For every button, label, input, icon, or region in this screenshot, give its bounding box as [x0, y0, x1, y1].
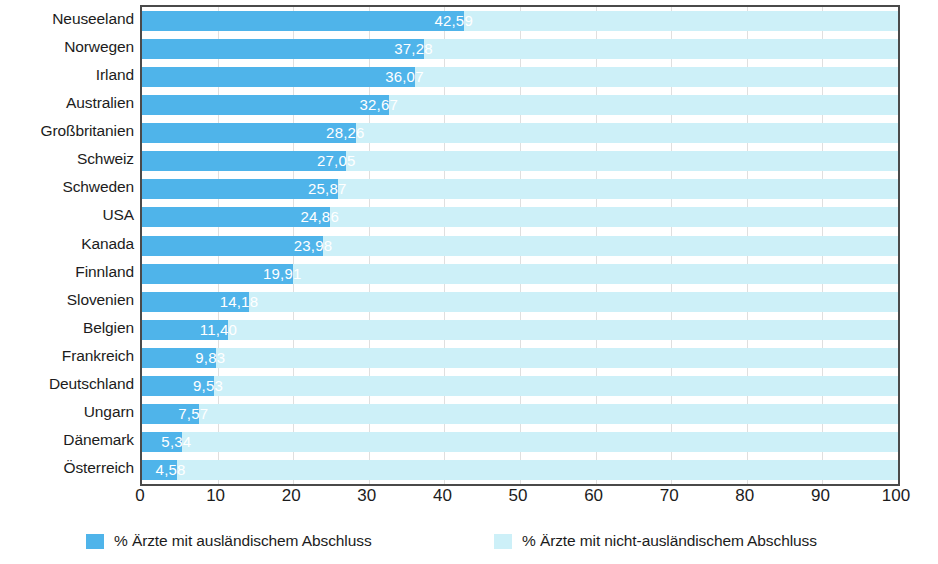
bar-value-label: 36,07: [142, 67, 424, 87]
bar-row: 28,26: [142, 123, 898, 143]
bar-row: 19,91: [142, 264, 898, 284]
bar-value-label: 7,57: [142, 404, 208, 424]
bar-value-label: 27,05: [142, 151, 355, 171]
y-axis-label-d-nemark: Dänemark: [2, 430, 134, 450]
y-axis-label-deutschland: Deutschland: [2, 374, 134, 394]
bar-row: 36,07: [142, 67, 898, 87]
x-axis-tick-50: 50: [488, 486, 548, 506]
bar-row: 9,53: [142, 376, 898, 396]
x-axis-tick-80: 80: [715, 486, 775, 506]
legend-item-domestic: % Ärzte mit nicht-ausländischem Abschlus…: [494, 528, 817, 554]
bar-row: 24,86: [142, 207, 898, 227]
y-axis-label--sterreich: Österreich: [2, 458, 134, 478]
y-axis-label-usa: USA: [2, 205, 134, 225]
x-axis-tick-20: 20: [261, 486, 321, 506]
bar-row: 9,83: [142, 348, 898, 368]
x-axis-tick-90: 90: [790, 486, 850, 506]
bar-value-label: 37,28: [142, 39, 433, 59]
bar-row: 7,57: [142, 404, 898, 424]
y-axis-label-ungarn: Ungarn: [2, 402, 134, 422]
bar-row: 32,67: [142, 95, 898, 115]
bar-value-label: 4,58: [142, 460, 186, 480]
y-axis-label-australien: Australien: [2, 93, 134, 113]
x-axis-tick-0: 0: [110, 486, 170, 506]
bar-row: 5,34: [142, 432, 898, 452]
x-axis-tick-40: 40: [412, 486, 472, 506]
bar-segment-domestic: [142, 320, 898, 340]
x-axis-tick-labels: 0102030405060708090100: [140, 486, 900, 514]
bar-row: 14,18: [142, 292, 898, 312]
y-axis-label-neuseeland: Neuseeland: [2, 9, 134, 29]
bar-value-label: 9,83: [142, 348, 225, 368]
x-axis-tick-100: 100: [866, 486, 926, 506]
y-axis-label-frankreich: Frankreich: [2, 346, 134, 366]
bar-value-label: 42,59: [142, 11, 473, 31]
bar-row: 37,28: [142, 39, 898, 59]
chart-legend: % Ärzte mit ausländischem Abschluss % Är…: [0, 528, 938, 558]
bar-row: 11,40: [142, 320, 898, 340]
bar-value-label: 11,40: [142, 320, 237, 340]
y-axis-label-finnland: Finnland: [2, 262, 134, 282]
bar-value-label: 14,18: [142, 292, 258, 312]
y-axis-label-slovenien: Slovenien: [2, 290, 134, 310]
x-axis-tick-30: 30: [337, 486, 397, 506]
y-axis-label-schweden: Schweden: [2, 177, 134, 197]
y-axis-label-norwegen: Norwegen: [2, 37, 134, 57]
y-axis-label-belgien: Belgien: [2, 318, 134, 338]
bar-value-label: 9,53: [142, 376, 223, 396]
legend-label-domestic: % Ärzte mit nicht-ausländischem Abschlus…: [522, 532, 817, 550]
y-axis-label-kanada: Kanada: [2, 234, 134, 254]
bar-row: 25,87: [142, 179, 898, 199]
legend-item-foreign: % Ärzte mit ausländischem Abschluss: [86, 528, 372, 554]
y-axis-label-irland: Irland: [2, 65, 134, 85]
x-axis-tick-10: 10: [186, 486, 246, 506]
bar-row: 42,59: [142, 11, 898, 31]
bar-segment-domestic: [142, 460, 898, 480]
bar-segment-domestic: [142, 404, 898, 424]
bar-value-label: 25,87: [142, 179, 347, 199]
bar-segment-domestic: [142, 432, 898, 452]
x-axis-tick-70: 70: [639, 486, 699, 506]
legend-swatch-foreign: [86, 534, 104, 549]
bar-segment-domestic: [142, 376, 898, 396]
bar-value-label: 28,26: [142, 123, 365, 143]
bar-row: 4,58: [142, 460, 898, 480]
x-axis-tick-60: 60: [564, 486, 624, 506]
plot-area: 42,5937,2836,0732,6728,2627,0525,8724,86…: [140, 5, 900, 486]
bar-value-label: 32,67: [142, 95, 398, 115]
legend-label-foreign: % Ärzte mit ausländischem Abschluss: [114, 532, 372, 550]
bar-value-label: 23,98: [142, 236, 332, 256]
bar-chart: NeuseelandNorwegenIrlandAustralienGroßbr…: [0, 0, 938, 564]
y-axis-label-schweiz: Schweiz: [2, 149, 134, 169]
bar-segment-domestic: [142, 348, 898, 368]
y-axis-category-labels: NeuseelandNorwegenIrlandAustralienGroßbr…: [0, 5, 134, 482]
bar-row: 23,98: [142, 236, 898, 256]
bar-value-label: 19,91: [142, 264, 302, 284]
bar-value-label: 5,34: [142, 432, 191, 452]
bar-value-label: 24,86: [142, 207, 339, 227]
y-axis-label-gro-britanien: Großbritanien: [2, 121, 134, 141]
bar-row: 27,05: [142, 151, 898, 171]
plot-inner: 42,5937,2836,0732,6728,2627,0525,8724,86…: [142, 7, 898, 484]
legend-swatch-domestic: [494, 534, 512, 549]
